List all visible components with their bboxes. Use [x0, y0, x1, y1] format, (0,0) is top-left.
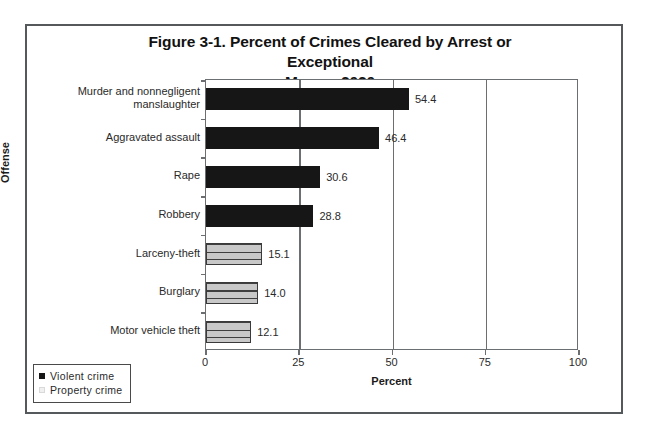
y-axis-category-labels: Murder and nonnegligentmanslaughterAggra…: [8, 79, 200, 350]
x-axis-ticks: 0255075100: [205, 350, 578, 370]
category-label-line: Larceny-theft: [10, 247, 200, 260]
legend-item[interactable]: Violent crime: [39, 369, 122, 383]
legend-swatch-icon: [39, 387, 45, 393]
bar-value-label: 28.8: [319, 205, 340, 227]
x-axis-tick-label: 75: [479, 356, 491, 368]
x-axis-tick-label: 25: [292, 356, 304, 368]
x-axis-tick-label: 100: [569, 356, 587, 368]
bar: [206, 321, 251, 343]
bar-value-label: 46.4: [385, 127, 406, 149]
y-axis-tick: [201, 80, 206, 82]
y-axis-category-label: Robbery: [10, 208, 200, 221]
y-axis-tick: [201, 157, 206, 159]
bar-value-label: 12.1: [257, 321, 278, 343]
chart-title-line-1: Figure 3-1. Percent of Crimes Cleared by…: [120, 32, 540, 72]
category-label-line: Burglary: [10, 285, 200, 298]
bar-value-label: 30.6: [326, 166, 347, 188]
category-label-line: Rape: [10, 169, 200, 182]
bar: [206, 243, 262, 265]
x-axis-title: Percent: [205, 375, 578, 387]
plot-area: 54.446.430.628.815.114.012.1: [205, 79, 578, 350]
legend-item[interactable]: Property crime: [39, 383, 122, 397]
legend-swatch-icon: [39, 373, 45, 379]
legend: Violent crimeProperty crime: [33, 364, 131, 403]
y-axis-category-label: Murder and nonnegligentmanslaughter: [10, 85, 200, 111]
bar: [206, 127, 379, 149]
y-axis-category-label: Aggravated assault: [10, 131, 200, 144]
x-axis-tick-mark: [485, 350, 487, 355]
y-axis-tick: [201, 196, 206, 198]
legend-item-label: Property crime: [50, 384, 122, 396]
y-axis-category-label: Burglary: [10, 285, 200, 298]
y-axis-category-label: Larceny-theft: [10, 247, 200, 260]
bar: [206, 282, 258, 304]
bar-value-label: 54.4: [415, 88, 436, 110]
bar: [206, 205, 313, 227]
bar: [206, 166, 320, 188]
x-axis-tick-label: 0: [202, 356, 208, 368]
y-axis-tick: [201, 274, 206, 276]
bar-value-label: 14.0: [264, 282, 285, 304]
x-axis-tick-label: 50: [385, 356, 397, 368]
category-label-line: manslaughter: [10, 98, 200, 111]
category-label-line: Aggravated assault: [10, 131, 200, 144]
x-axis-tick-mark: [205, 350, 207, 355]
y-axis-category-label: Motor vehicle theft: [10, 324, 200, 337]
y-axis-tick: [201, 235, 206, 237]
x-axis-tick-mark: [578, 350, 580, 355]
figure-container: Figure 3-1. Percent of Crimes Cleared by…: [0, 0, 648, 439]
bar: [206, 88, 409, 110]
y-axis-category-label: Rape: [10, 169, 200, 182]
legend-item-label: Violent crime: [50, 370, 114, 382]
x-axis-tick-mark: [298, 350, 300, 355]
category-label-line: Robbery: [10, 208, 200, 221]
bars-layer: 54.446.430.628.815.114.012.1: [206, 80, 577, 349]
bar-value-label: 15.1: [268, 243, 289, 265]
y-axis-tick: [201, 312, 206, 314]
category-label-line: Motor vehicle theft: [10, 324, 200, 337]
y-axis-tick: [201, 119, 206, 121]
category-label-line: Murder and nonnegligent: [10, 85, 200, 98]
x-axis-tick-mark: [392, 350, 394, 355]
